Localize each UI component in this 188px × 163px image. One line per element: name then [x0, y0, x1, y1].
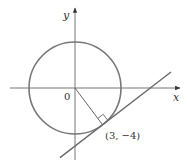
x-axis-label: x	[173, 91, 180, 104]
origin-label: 0	[64, 91, 70, 102]
tangent-line	[60, 72, 171, 158]
tangent-point-label: (3, −4)	[105, 130, 140, 141]
radius-segment	[75, 88, 103, 125]
y-axis-label: y	[62, 9, 70, 22]
diagram-canvas: y x 0 (3, −4)	[0, 0, 188, 163]
